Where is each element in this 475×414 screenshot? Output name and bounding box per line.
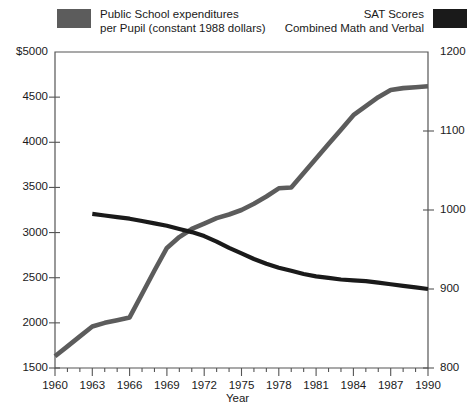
x-axis-tick-label: 1987 [371,379,411,391]
y-axis-left-tick-label: $5000 [0,45,48,57]
y-axis-left-tick-label: 1500 [0,361,48,373]
y-axis-left-tick-label: 3000 [0,226,48,238]
x-axis-tick-label: 1975 [222,379,262,391]
y-axis-left-tick-label: 2500 [0,271,48,283]
chart-container: Public School expenditures per Pupil (co… [0,0,475,414]
x-axis-tick-label: 1969 [147,379,187,391]
y-axis-right-tick-label: 1200 [440,45,466,57]
x-axis-tick-label: 1981 [296,379,336,391]
y-axis-right-tick-label: 1000 [440,203,466,215]
x-axis-tick-label: 1972 [184,379,224,391]
y-axis-right-tick-label: 900 [440,282,459,294]
series-line-expenditures [55,86,428,356]
y-axis-left-tick-label: 3500 [0,180,48,192]
y-axis-right-tick-label: 800 [440,361,459,373]
x-axis-tick-label: 1963 [72,379,112,391]
x-axis-tick-label: 1966 [110,379,150,391]
x-axis-title: Year [0,392,475,404]
y-axis-left-tick-label: 4500 [0,90,48,102]
x-axis-tick-label: 1960 [35,379,75,391]
y-axis-right-tick-label: 1100 [440,124,465,136]
x-axis-tick-label: 1978 [259,379,299,391]
x-axis-tick-label: 1990 [408,379,448,391]
y-axis-left-tick-label: 4000 [0,135,48,147]
x-axis-tick-label: 1984 [333,379,373,391]
y-axis-left-tick-label: 2000 [0,316,48,328]
plot-area [0,0,475,414]
series-line-sat [92,214,428,289]
